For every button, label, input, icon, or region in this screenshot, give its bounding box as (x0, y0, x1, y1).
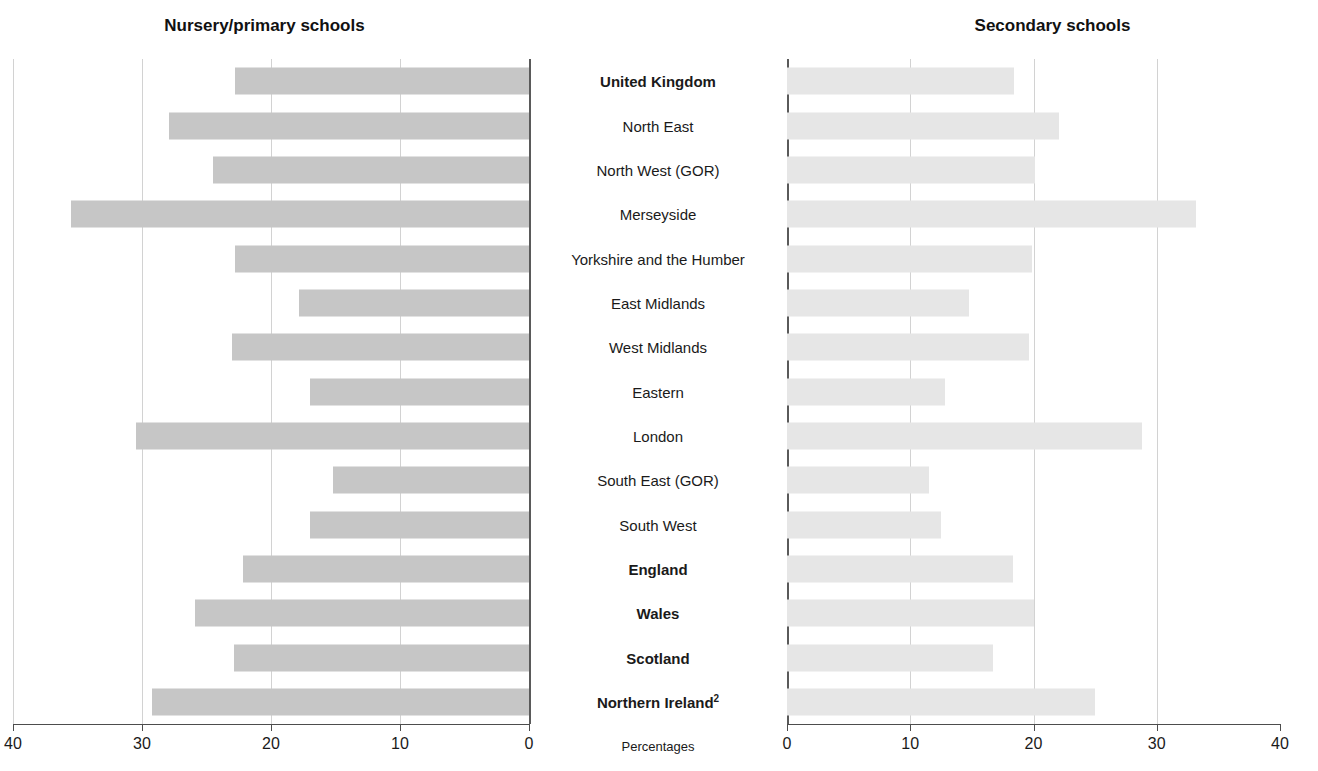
bar-left-east-midlands (299, 289, 529, 316)
category-label-london: London (529, 427, 787, 444)
axis-caption: Percentages (529, 739, 787, 754)
left-axis-tick-10 (400, 724, 401, 731)
right-axis-tick-label-20: 20 (1025, 735, 1043, 753)
category-label-merseyside: Merseyside (529, 206, 787, 223)
bar-right-south-east-gor (787, 467, 929, 494)
category-label-north-west-gor: North West (GOR) (529, 161, 787, 178)
right-axis-tick-label-0: 0 (783, 735, 792, 753)
bar-right-london (787, 422, 1142, 449)
bar-right-north-west-gor (787, 156, 1035, 183)
right-axis-tick-label-10: 10 (901, 735, 919, 753)
bar-left-scotland (234, 644, 529, 671)
right-gridline-30 (1157, 59, 1158, 724)
right-axis-tick-30 (1157, 724, 1158, 731)
left-axis-tick-label-20: 20 (262, 735, 280, 753)
bar-right-north-east (787, 112, 1059, 139)
bar-left-eastern (310, 378, 529, 405)
category-label-united-kingdom: United Kingdom (529, 73, 787, 90)
right-axis-tick-10 (910, 724, 911, 731)
bar-left-london (136, 422, 529, 449)
left-gridline-40 (13, 59, 14, 724)
right-plot-area (787, 59, 1280, 724)
category-label-south-east-gor: South East (GOR) (529, 472, 787, 489)
left-gridline-30 (142, 59, 143, 724)
category-label-england: England (529, 560, 787, 577)
left-axis-tick-label-30: 30 (133, 735, 151, 753)
right-axis-tick-label-40: 40 (1271, 735, 1289, 753)
chart-canvas: Nursery/primary schools Secondary school… (0, 0, 1318, 771)
bar-right-wales (787, 600, 1034, 627)
category-label-east-midlands: East Midlands (529, 294, 787, 311)
bar-left-united-kingdom (235, 68, 529, 95)
bar-left-yorkshire-and-the-humber (235, 245, 529, 272)
bar-left-england (243, 555, 529, 582)
right-axis-tick-label-30: 30 (1148, 735, 1166, 753)
category-label-wales: Wales (529, 605, 787, 622)
left-axis-tick-label-40: 40 (4, 735, 22, 753)
left-plot-area (13, 59, 529, 724)
category-label-yorkshire-and-the-humber: Yorkshire and the Humber (529, 250, 787, 267)
bar-left-northern-ireland (152, 688, 529, 715)
footnote-marker: 2 (714, 692, 720, 703)
right-axis-tick-40 (1280, 724, 1281, 731)
left-axis-tick-40 (13, 724, 14, 731)
category-label-south-west: South West (529, 516, 787, 533)
bar-right-east-midlands (787, 289, 969, 316)
right-axis-tick-0 (787, 724, 788, 731)
bar-right-northern-ireland (787, 688, 1095, 715)
bar-right-yorkshire-and-the-humber (787, 245, 1032, 272)
bar-right-west-midlands (787, 334, 1029, 361)
bar-right-eastern (787, 378, 945, 405)
category-label-northern-ireland: Northern Ireland2 (529, 693, 787, 710)
left-axis-tick-0 (529, 724, 530, 731)
bar-left-merseyside (71, 201, 529, 228)
category-label-west-midlands: West Midlands (529, 339, 787, 356)
left-axis-tick-label-0: 0 (525, 735, 534, 753)
bar-right-united-kingdom (787, 68, 1014, 95)
category-label-column: United KingdomNorth EastNorth West (GOR)… (529, 59, 787, 724)
category-label-north-east: North East (529, 117, 787, 134)
left-axis-tick-20 (271, 724, 272, 731)
bar-left-north-east (169, 112, 529, 139)
left-chart-title: Nursery/primary schools (0, 16, 529, 36)
bar-right-scotland (787, 644, 993, 671)
right-chart-title: Secondary schools (787, 16, 1318, 36)
bar-left-south-west (310, 511, 529, 538)
bar-right-england (787, 555, 1013, 582)
bar-left-north-west-gor (213, 156, 529, 183)
category-label-scotland: Scotland (529, 649, 787, 666)
left-axis-tick-30 (142, 724, 143, 731)
bar-right-merseyside (787, 201, 1196, 228)
right-axis-tick-20 (1034, 724, 1035, 731)
bar-left-wales (195, 600, 529, 627)
bar-right-south-west (787, 511, 941, 538)
left-axis-tick-label-10: 10 (391, 735, 409, 753)
category-label-eastern: Eastern (529, 383, 787, 400)
bar-left-west-midlands (232, 334, 529, 361)
bar-left-south-east-gor (333, 467, 529, 494)
